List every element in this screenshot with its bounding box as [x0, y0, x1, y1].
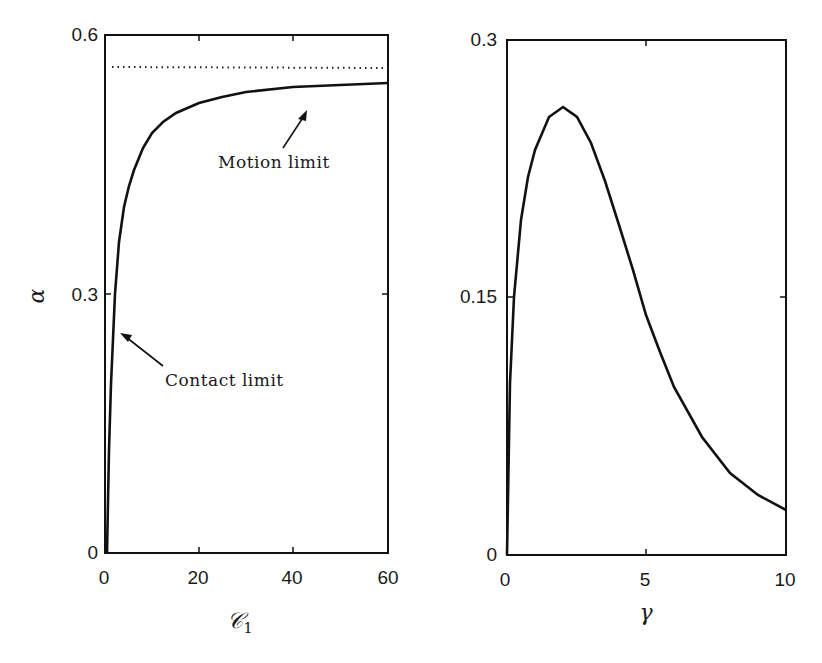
right-xlabel-gamma: γ [639, 600, 653, 625]
right-xtick-0: 0 [500, 569, 511, 590]
right-ytick-0.3: 0.3 [471, 29, 497, 50]
asymptote-dotted-line [112, 67, 388, 68]
motion-limit-arrowhead [298, 110, 307, 121]
right-xtick-10: 10 [774, 569, 795, 590]
left-plot-frame [105, 35, 388, 553]
left-ytick-0: 0 [87, 542, 98, 563]
left-ytick-0.6: 0.6 [72, 24, 98, 45]
left-xtick-60: 60 [377, 567, 398, 588]
left-xtick-40: 40 [281, 567, 302, 588]
right-plot: 0.3 0.15 0 0 5 10 γ [460, 29, 796, 625]
left-xtick-0: 0 [99, 567, 110, 588]
contact-limit-label: Contact limit [165, 370, 284, 390]
right-ytick-0.15: 0.15 [460, 286, 497, 307]
left-ytick-0.3: 0.3 [72, 284, 98, 305]
left-xtick-20: 20 [187, 567, 208, 588]
left-plot: 0.6 0.3 0 0 20 40 60 α 𝒞1 Motion limit C… [24, 24, 399, 637]
figure: 0.6 0.3 0 0 20 40 60 α 𝒞1 Motion limit C… [0, 0, 822, 663]
right-xtick-5: 5 [640, 569, 651, 590]
right-ytick-0: 0 [486, 544, 497, 565]
right-curve [507, 107, 786, 555]
left-ylabel-alpha: α [24, 288, 49, 303]
left-xlabel-c1: 𝒞1 [227, 608, 253, 637]
motion-limit-label: Motion limit [218, 152, 330, 172]
